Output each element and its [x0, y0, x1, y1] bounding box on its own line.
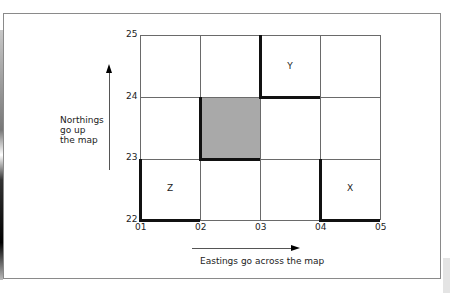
northings-label: Northings go up the map [60, 115, 104, 145]
northings-label-line: the map [60, 135, 104, 145]
square-marker-left [199, 97, 202, 160]
square-marker-bottom [139, 219, 200, 222]
cell-label-x: X [320, 183, 380, 193]
eastings-arrow [192, 248, 292, 249]
easting-tick-04: 04 [315, 222, 326, 232]
shaded-square-0223 [200, 97, 260, 159]
northings-label-line: go up [60, 125, 104, 135]
arrow-up-icon [106, 64, 112, 73]
cell-label-z: Z [140, 183, 200, 193]
map-grid: Y Z X [140, 35, 380, 220]
northings-arrow [109, 73, 110, 170]
northing-tick-24: 24 [126, 91, 137, 101]
square-marker-bottom [259, 96, 320, 99]
square-marker-bottom [319, 219, 380, 222]
northing-tick-25: 25 [126, 29, 137, 39]
northings-label-line: Northings [60, 115, 104, 125]
arrow-right-icon [291, 245, 300, 251]
easting-tick-05: 05 [375, 222, 386, 232]
easting-tick-03: 03 [255, 222, 266, 232]
cell-label-y: Y [260, 61, 320, 71]
eastings-label: Eastings go across the map [200, 256, 324, 266]
easting-tick-02: 02 [195, 222, 206, 232]
easting-tick-01: 01 [135, 222, 146, 232]
northing-tick-23: 23 [126, 152, 137, 162]
square-marker-bottom [199, 158, 260, 161]
page-edge-shadow-right [443, 258, 450, 293]
grid-line [380, 35, 381, 220]
